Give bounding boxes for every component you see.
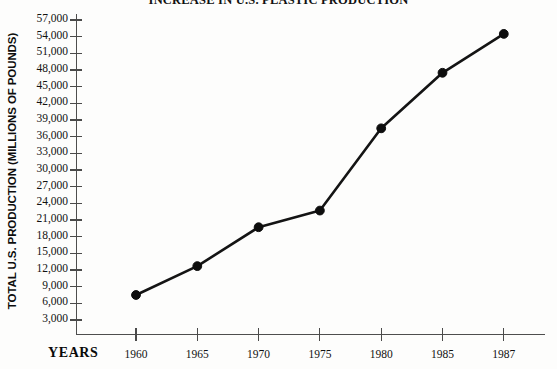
y-tick-label: 54,000: [18, 29, 68, 41]
y-tick-label: 18,000: [18, 229, 68, 241]
y-tick-label: 3,000: [18, 312, 68, 324]
data-point-1980: [377, 124, 386, 133]
y-tick-label: 9,000: [18, 279, 68, 291]
x-axis-title: YEARS: [48, 345, 98, 361]
x-tick-label: 1980: [351, 348, 411, 360]
data-point-1987: [499, 29, 508, 38]
y-tick-label: 48,000: [18, 62, 68, 74]
chart-title: INCREASE IN U.S. PLASTIC PRODUCTION: [0, 0, 557, 8]
x-tick-label: 1985: [413, 348, 473, 360]
series-line-plastic-production: [136, 34, 504, 295]
y-tick-label: 51,000: [18, 45, 68, 57]
y-tick-label: 6,000: [18, 295, 68, 307]
y-tick-label: 33,000: [18, 145, 68, 157]
data-point-1965: [193, 262, 202, 271]
y-tick-label: 39,000: [18, 112, 68, 124]
y-tick-label: 45,000: [18, 79, 68, 91]
y-tick-label: 30,000: [18, 162, 68, 174]
x-tick-label: 1987: [474, 348, 534, 360]
y-tick-label: 36,000: [18, 129, 68, 141]
y-axis-tick-labels: 3,0006,0009,00012,00015,00018,00021,0002…: [12, 14, 68, 335]
x-tick-label: 1970: [229, 348, 289, 360]
x-tick-label: 1960: [106, 348, 166, 360]
chart-figure: INCREASE IN U.S. PLASTIC PRODUCTION TOTA…: [0, 0, 557, 369]
y-tick-label: 57,000: [18, 12, 68, 24]
plot-area: 3,0006,0009,00012,00015,00018,00021,0002…: [76, 14, 545, 335]
data-point-1960: [132, 291, 141, 300]
y-tick-label: 15,000: [18, 245, 68, 257]
data-point-1970: [254, 223, 263, 232]
series-markers: [132, 29, 509, 299]
y-tick-label: 42,000: [18, 95, 68, 107]
series-plot: [76, 14, 545, 335]
x-tick-label: 1965: [167, 348, 227, 360]
y-tick-label: 27,000: [18, 179, 68, 191]
y-tick-label: 12,000: [18, 262, 68, 274]
data-point-1985: [438, 68, 447, 77]
x-tick-label: 1975: [290, 348, 350, 360]
y-tick-label: 24,000: [18, 195, 68, 207]
y-tick-label: 21,000: [18, 212, 68, 224]
data-point-1975: [316, 206, 325, 215]
